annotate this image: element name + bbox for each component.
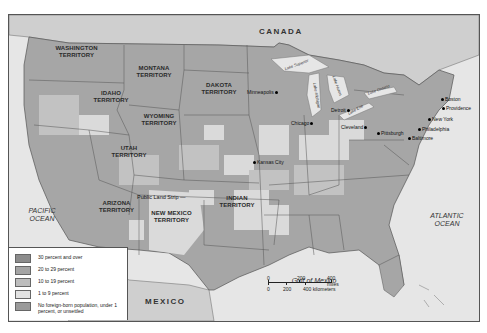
legend-item-none: No foreign-born population, under 1 perc… bbox=[15, 302, 120, 314]
territory-label-utah: UTAH TERRITORY bbox=[109, 145, 149, 158]
city-philadelphia: Philadelphia bbox=[417, 127, 449, 132]
scale-km-200: 200 bbox=[283, 286, 291, 292]
territory-label-idaho: IDAHO TERRITORY bbox=[91, 90, 131, 103]
territory-label-new-mexico: NEW MEXICO TERRITORY bbox=[144, 210, 199, 223]
city-dot-icon bbox=[408, 137, 411, 140]
city-baltimore: Baltimore bbox=[407, 136, 433, 141]
pacific-ocean-label: PACIFIC OCEAN bbox=[17, 207, 67, 222]
city-boston: Boston bbox=[440, 97, 461, 102]
legend-swatch bbox=[15, 278, 31, 287]
legend-swatch bbox=[15, 254, 31, 263]
territory-label-indian: INDIAN TERRITORY bbox=[217, 195, 257, 208]
city-detroit: Detroit bbox=[331, 108, 351, 113]
city-new-york: New York bbox=[427, 117, 453, 122]
city-dot-icon bbox=[253, 161, 256, 164]
scale-km-400: 400 kilometers bbox=[303, 286, 336, 292]
city-dot-icon bbox=[364, 126, 367, 129]
city-dot-icon bbox=[275, 91, 278, 94]
city-dot-icon bbox=[442, 107, 445, 110]
legend-item-1-9: 1 to 9 percent bbox=[15, 290, 69, 299]
public-land-strip-label: Public Land Strip — bbox=[137, 195, 186, 200]
city-dot-icon bbox=[310, 122, 313, 125]
territory-label-montana: MONTANA TERRITORY bbox=[129, 65, 179, 78]
territory-label-wyoming: WYOMING TERRITORY bbox=[134, 113, 184, 126]
city-chicago: Chicago bbox=[291, 121, 314, 126]
scale-km-0: 0 bbox=[267, 286, 270, 292]
country-label-mexico: MEXICO bbox=[145, 297, 186, 306]
map-frame: CANADA MEXICO PACIFIC OCEAN ATLANTIC OCE… bbox=[8, 14, 480, 322]
city-dot-icon bbox=[418, 128, 421, 131]
city-dot-icon bbox=[428, 118, 431, 121]
territory-label-washington: WASHINGTON TERRITORY bbox=[49, 45, 104, 58]
scale-bar: 0 200 400 miles 0 200 400 kilometers bbox=[267, 275, 347, 305]
city-minneapolis: Minneapolis bbox=[247, 90, 279, 95]
city-dot-icon bbox=[441, 98, 444, 101]
legend-swatch bbox=[15, 290, 31, 299]
legend-swatch bbox=[15, 266, 31, 275]
city-dot-icon bbox=[377, 132, 380, 135]
legend-item-10-19: 10 to 19 percent bbox=[15, 278, 74, 287]
territory-label-dakota: DAKOTA TERRITORY bbox=[199, 82, 239, 95]
atlantic-ocean-label: ATLANTIC OCEAN bbox=[422, 212, 472, 227]
legend-swatch bbox=[15, 302, 31, 311]
legend-item-30-plus: 30 percent and over bbox=[15, 254, 82, 263]
legend-item-20-29: 20 to 29 percent bbox=[15, 266, 74, 275]
city-providence: Providence bbox=[441, 106, 471, 111]
city-kansas-city: Kansas City bbox=[252, 160, 284, 165]
country-label-canada: CANADA bbox=[259, 27, 303, 36]
city-pittsburgh: Pittsburgh bbox=[376, 131, 404, 136]
map-legend: 30 percent and over 20 to 29 percent 10 … bbox=[9, 247, 128, 320]
territory-label-arizona: ARIZONA TERRITORY bbox=[94, 200, 139, 213]
city-cleveland: Cleveland bbox=[341, 125, 368, 130]
city-dot-icon bbox=[347, 109, 350, 112]
